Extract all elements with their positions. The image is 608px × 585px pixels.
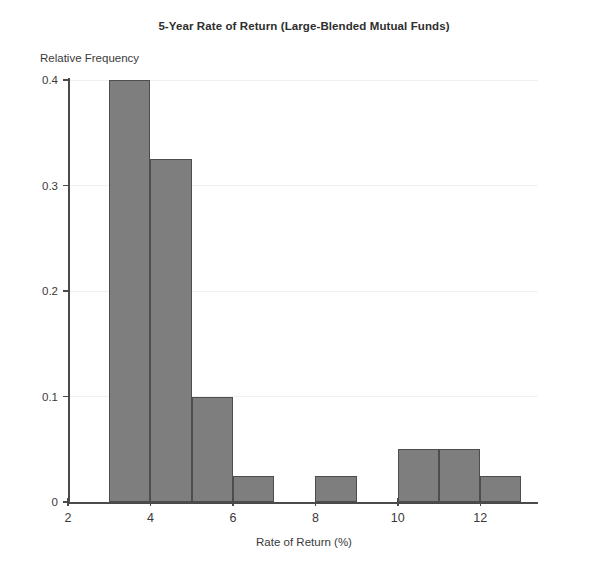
x-tick-label: 4 [130, 511, 170, 525]
x-tick-mark [397, 498, 398, 506]
x-tick-label: 8 [295, 511, 335, 525]
chart-title: 5-Year Rate of Return (Large-Blended Mut… [0, 20, 608, 32]
y-tick-label: 0.3 [12, 180, 58, 192]
histogram-chart: 5-Year Rate of Return (Large-Blended Mut… [0, 0, 608, 585]
x-axis-line [67, 502, 538, 504]
y-tick-label: 0.1 [12, 391, 58, 403]
histogram-bar [192, 397, 233, 503]
histogram-bar [439, 449, 480, 502]
x-tick-mark [315, 498, 316, 506]
histogram-bar [398, 449, 439, 502]
histogram-bar [109, 80, 150, 502]
histogram-bar [233, 476, 274, 502]
histogram-bar [315, 476, 356, 502]
x-tick-label: 10 [378, 511, 418, 525]
x-tick-mark [67, 498, 68, 506]
y-tick-label: 0.4 [12, 74, 58, 86]
histogram-bar [480, 476, 521, 502]
y-axis-line [68, 78, 70, 504]
x-tick-mark [480, 498, 481, 506]
x-tick-label: 12 [460, 511, 500, 525]
x-tick-label: 6 [213, 511, 253, 525]
y-axis-label: Relative Frequency [40, 52, 139, 64]
y-tick-label: 0.2 [12, 285, 58, 297]
x-axis-label: Rate of Return (%) [0, 536, 608, 548]
x-tick-mark [232, 498, 233, 506]
y-tick-label: 0 [12, 496, 58, 508]
x-tick-mark [150, 498, 151, 506]
histogram-bar [150, 159, 191, 502]
x-tick-label: 2 [48, 511, 88, 525]
